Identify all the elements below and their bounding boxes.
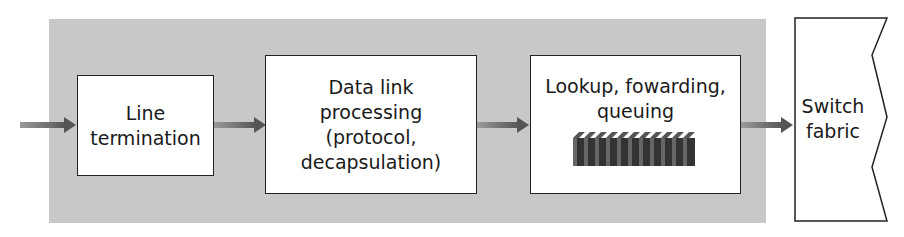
lookup-forwarding-queuing-box: Lookup, fowarding, queuing <box>530 55 741 194</box>
switch-fabric-label: Switch fabric <box>794 17 872 221</box>
lookup-label-2: queuing <box>597 99 674 124</box>
data-link-processing-box: Data link processing (protocol, decapsul… <box>265 55 477 194</box>
input-arrow <box>20 122 76 128</box>
line-termination-label-1: Line <box>126 101 166 126</box>
queue-stack-icon <box>571 130 701 168</box>
lookup-label-1: Lookup, fowarding, <box>545 74 726 99</box>
arrow-datalink-to-lookup <box>477 122 529 128</box>
arrow-line-to-datalink <box>214 122 266 128</box>
line-termination-box: Line termination <box>77 75 214 176</box>
data-link-label-1: Data link <box>328 75 413 100</box>
data-link-label-4: decapsulation) <box>301 150 442 175</box>
switch-fabric-label-2: fabric <box>806 119 860 144</box>
line-termination-label-2: termination <box>90 126 200 151</box>
data-link-label-2: processing <box>320 100 422 125</box>
data-link-label-3: (protocol, <box>326 125 417 150</box>
arrow-lookup-to-fabric <box>741 122 793 128</box>
switch-fabric-label-1: Switch <box>802 94 865 119</box>
